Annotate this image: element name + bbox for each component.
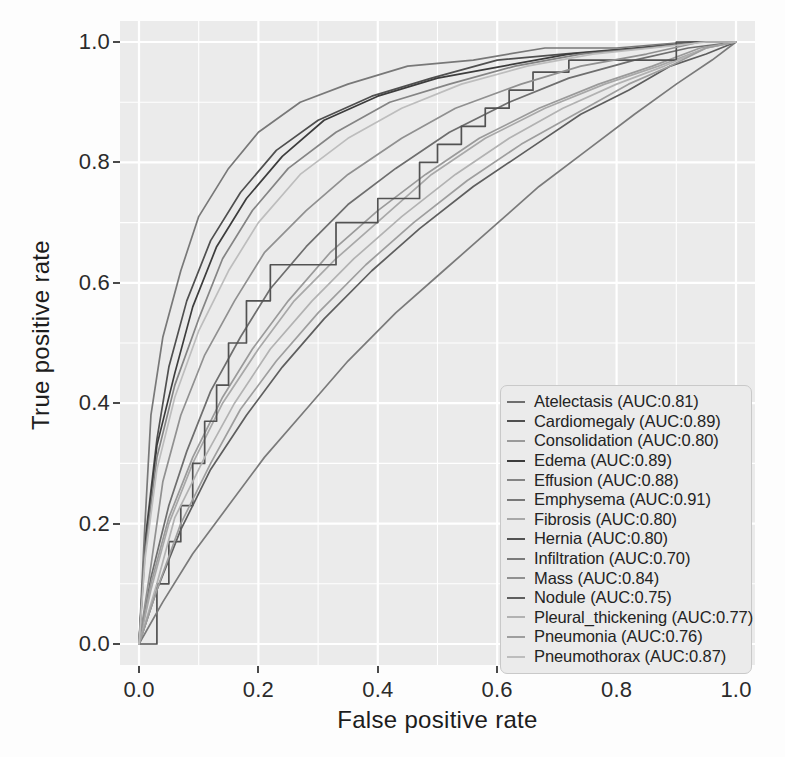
- legend-line-swatch-icon: [505, 392, 527, 411]
- legend-item[interactable]: Consolidation (AUC:0.80): [505, 431, 743, 451]
- x-tick-mark: [496, 666, 498, 673]
- x-tick-mark: [377, 666, 379, 673]
- legend-line-swatch-icon: [505, 471, 527, 490]
- x-tick-label: 0.6: [457, 677, 537, 703]
- legend-item[interactable]: Nodule (AUC:0.75): [505, 588, 743, 608]
- y-tick-mark: [113, 523, 120, 525]
- legend-line-swatch-icon: [505, 647, 527, 666]
- y-tick-mark: [113, 282, 120, 284]
- x-tick-mark: [138, 666, 140, 673]
- y-tick-label: 0.0: [46, 631, 110, 657]
- x-axis-tick-labels: 0.00.20.40.60.81.0: [120, 677, 755, 707]
- legend-line-swatch-icon: [505, 588, 527, 607]
- y-tick-mark: [113, 41, 120, 43]
- legend-item-label: Edema (AUC:0.89): [534, 451, 672, 470]
- legend-item[interactable]: Atelectasis (AUC:0.81): [505, 392, 743, 412]
- y-tick-mark: [113, 402, 120, 404]
- legend-line-swatch-icon: [505, 412, 527, 431]
- x-tick-label: 0.4: [338, 677, 418, 703]
- legend: Atelectasis (AUC:0.81)Cardiomegaly (AUC:…: [500, 385, 752, 674]
- legend-line-swatch-icon: [505, 608, 527, 627]
- legend-line-swatch-icon: [505, 451, 527, 470]
- y-axis-title: True positive rate: [27, 13, 55, 657]
- legend-item-label: Consolidation (AUC:0.80): [534, 431, 719, 450]
- legend-item-label: Nodule (AUC:0.75): [534, 588, 672, 607]
- x-axis-title: False positive rate: [120, 706, 755, 734]
- y-tick-label: 0.6: [46, 270, 110, 296]
- x-tick-label: 0.8: [577, 677, 657, 703]
- legend-item-label: Hernia (AUC:0.80): [534, 529, 668, 548]
- legend-item-label: Pneumonia (AUC:0.76): [534, 627, 703, 646]
- legend-item[interactable]: Pleural_thickening (AUC:0.77): [505, 608, 743, 628]
- legend-line-swatch-icon: [505, 490, 527, 509]
- legend-item[interactable]: Hernia (AUC:0.80): [505, 529, 743, 549]
- legend-item-label: Mass (AUC:0.84): [534, 569, 659, 588]
- legend-line-swatch-icon: [505, 431, 527, 450]
- legend-item[interactable]: Edema (AUC:0.89): [505, 451, 743, 471]
- legend-line-swatch-icon: [505, 627, 527, 646]
- y-axis-tick-labels: 0.00.20.40.60.81.0: [0, 21, 110, 665]
- legend-item[interactable]: Fibrosis (AUC:0.80): [505, 510, 743, 530]
- legend-item[interactable]: Emphysema (AUC:0.91): [505, 490, 743, 510]
- y-tick-mark: [113, 643, 120, 645]
- y-tick-mark: [113, 161, 120, 163]
- legend-line-swatch-icon: [505, 510, 527, 529]
- x-tick-label: 0.2: [218, 677, 298, 703]
- legend-line-swatch-icon: [505, 529, 527, 548]
- legend-line-swatch-icon: [505, 549, 527, 568]
- y-tick-label: 0.2: [46, 511, 110, 537]
- legend-item-label: Pleural_thickening (AUC:0.77): [534, 608, 753, 627]
- legend-line-swatch-icon: [505, 569, 527, 588]
- legend-item-label: Cardiomegaly (AUC:0.89): [534, 412, 721, 431]
- legend-item[interactable]: Cardiomegaly (AUC:0.89): [505, 412, 743, 432]
- y-tick-label: 0.4: [46, 390, 110, 416]
- y-tick-label: 1.0: [46, 29, 110, 55]
- x-tick-mark: [257, 666, 259, 673]
- legend-item-label: Infiltration (AUC:0.70): [534, 549, 690, 568]
- legend-item[interactable]: Pneumothorax (AUC:0.87): [505, 647, 743, 667]
- legend-item-label: Atelectasis (AUC:0.81): [534, 392, 699, 411]
- x-tick-label: 0.0: [99, 677, 179, 703]
- legend-item[interactable]: Pneumonia (AUC:0.76): [505, 627, 743, 647]
- x-tick-label: 1.0: [696, 677, 776, 703]
- legend-item-label: Pneumothorax (AUC:0.87): [534, 647, 726, 666]
- legend-item-label: Fibrosis (AUC:0.80): [534, 510, 677, 529]
- legend-item[interactable]: Mass (AUC:0.84): [505, 568, 743, 588]
- legend-item-label: Emphysema (AUC:0.91): [534, 490, 711, 509]
- legend-item-label: Effusion (AUC:0.88): [534, 471, 679, 490]
- roc-curve-figure: 0.00.20.40.60.81.0 0.00.20.40.60.81.0 Fa…: [0, 0, 785, 757]
- y-tick-label: 0.8: [46, 149, 110, 175]
- y-axis-tick-marks: [112, 21, 120, 665]
- legend-item[interactable]: Infiltration (AUC:0.70): [505, 549, 743, 569]
- legend-item[interactable]: Effusion (AUC:0.88): [505, 470, 743, 490]
